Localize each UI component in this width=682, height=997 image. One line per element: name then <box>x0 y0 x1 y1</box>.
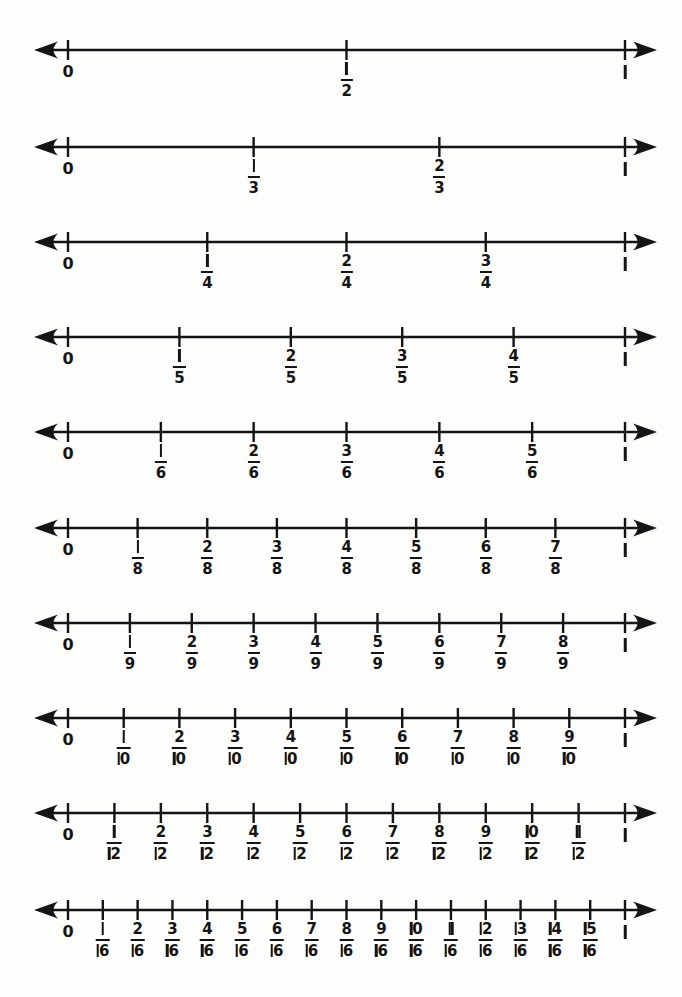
fraction-denominator: 4 <box>480 275 492 291</box>
fraction-denominator: 9 <box>309 656 321 672</box>
numeral-one-stroke <box>624 352 627 366</box>
tick-label-fraction: 28 <box>201 540 213 577</box>
tick-label-fraction: 76 <box>304 922 319 959</box>
tick-label-fraction: 24 <box>340 254 352 291</box>
numeral-digits: 6 <box>341 464 351 482</box>
tick-label-one <box>624 256 627 272</box>
tick-label-fraction: 6 <box>155 444 167 481</box>
tick-label-fraction: 90 <box>562 730 577 767</box>
fraction-denominator: 2 <box>246 846 261 862</box>
fraction: 72 <box>386 825 401 862</box>
number-line-row-6: 0626364656 <box>0 410 682 505</box>
tick-label-fraction: 82 <box>432 825 447 862</box>
numeral-digits: 0 <box>287 750 297 768</box>
numeral-digits: 3 <box>481 252 491 270</box>
tick-label-one <box>624 64 627 80</box>
fraction-numerator: 9 <box>562 730 577 746</box>
tick-label-one <box>624 732 627 748</box>
numeral-digits: 6 <box>481 538 491 556</box>
fraction: 29 <box>186 635 198 672</box>
tick-label-fraction: 25 <box>285 349 297 386</box>
fraction: 30 <box>228 730 243 767</box>
fraction-numerator: 3 <box>165 922 180 938</box>
fraction-denominator: 0 <box>172 751 187 767</box>
fraction-denominator: 2 <box>525 846 540 862</box>
fraction-denominator: 8 <box>549 561 561 577</box>
numeral-digits: 3 <box>272 538 282 556</box>
fraction-denominator: 9 <box>557 656 569 672</box>
numeral-digits: 6 <box>482 942 492 960</box>
tick-label-fraction: 38 <box>271 540 283 577</box>
fraction-denominator: 0 <box>451 751 466 767</box>
fraction-numerator: 4 <box>200 922 215 938</box>
tick-label-fraction: 46 <box>433 444 445 481</box>
numeral-one-stroke <box>160 444 162 457</box>
fraction-numerator: 3 <box>248 635 260 651</box>
number-line-row-12: 022232425262728292022 <box>0 791 682 886</box>
fraction-denominator: 2 <box>478 846 493 862</box>
numeral-digits: 2 <box>203 845 213 863</box>
tick-label-fraction: 86 <box>339 922 354 959</box>
numeral-digits: 3 <box>517 920 527 938</box>
fraction-denominator: 3 <box>433 180 445 196</box>
numeral-digits: 2 <box>296 845 306 863</box>
numeral-digits: 3 <box>167 920 177 938</box>
numeral-digits: 6 <box>273 942 283 960</box>
fraction-numerator: 3 <box>513 922 528 938</box>
fraction-denominator: 2 <box>340 83 352 99</box>
tick-label-fraction: 30 <box>228 730 243 767</box>
fraction-denominator: 0 <box>506 751 521 767</box>
numeral-digits: 5 <box>397 369 407 387</box>
fraction-denominator: 2 <box>293 846 308 862</box>
tick-label-fraction: 0 <box>116 730 131 767</box>
fraction-numerator: 2 <box>478 922 493 938</box>
numeral-digits: 8 <box>133 560 143 578</box>
numeral-digits: 9 <box>558 655 568 673</box>
numeral-digits: 6 <box>434 633 444 651</box>
fraction-numerator: 6 <box>480 540 492 556</box>
number-line-row-9: 0929394959697989 <box>0 601 682 696</box>
numeral-digits: 6 <box>249 464 259 482</box>
numeral-digits: 5 <box>372 633 382 651</box>
numeral-digits: 4 <box>341 538 351 556</box>
numeral-digits: 4 <box>481 274 491 292</box>
fraction: 24 <box>340 254 352 291</box>
numeral-digits: 6 <box>586 942 596 960</box>
numeral-digits: 3 <box>434 179 444 197</box>
fraction: 32 <box>200 825 215 862</box>
fraction-denominator: 8 <box>271 561 283 577</box>
fraction: 89 <box>557 635 569 672</box>
numeral-digits: 8 <box>550 560 560 578</box>
numeral-digits: 7 <box>453 728 463 746</box>
numeral-digits: 0 <box>231 750 241 768</box>
fraction-numerator: 6 <box>270 922 285 938</box>
tick-label-fraction: 6 <box>444 922 459 959</box>
fraction-numerator: 9 <box>478 825 493 841</box>
numeral-digits: 2 <box>528 845 538 863</box>
fraction-numerator: 4 <box>340 540 352 556</box>
numeral-digits: 0 <box>63 62 74 81</box>
numeral-digits: 6 <box>397 728 407 746</box>
fraction: 50 <box>339 730 354 767</box>
fraction-numerator <box>340 62 352 78</box>
numeral-digits: 4 <box>341 274 351 292</box>
numeral-one-stroke <box>178 349 180 362</box>
tick-label-fraction: 68 <box>480 540 492 577</box>
tick-label-fraction: 26 <box>478 922 493 959</box>
tick-label-zero: 0 <box>63 256 74 272</box>
tick-label-fraction: 36 <box>513 922 528 959</box>
numeral-digits: 2 <box>249 442 259 460</box>
fraction-denominator: 8 <box>132 561 144 577</box>
numeral-one-stroke <box>624 257 627 271</box>
numeral-digits: 0 <box>63 254 74 273</box>
fraction-denominator: 3 <box>248 180 260 196</box>
numeral-digits: 6 <box>238 942 248 960</box>
numeral-digits: 5 <box>237 920 247 938</box>
numeral-digits: 6 <box>341 823 351 841</box>
numeral-one-stroke <box>345 62 347 75</box>
tick-label-fraction: 69 <box>433 635 445 672</box>
tick-label-one <box>624 827 627 843</box>
fraction: 25 <box>285 349 297 386</box>
fraction-numerator: 4 <box>246 825 261 841</box>
tick-label-fraction: 26 <box>130 922 145 959</box>
